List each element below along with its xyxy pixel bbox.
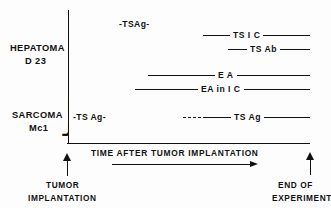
brace-glyph: } (57, 10, 69, 98)
callout-implantation-line2: IMPLANTATION (28, 194, 97, 202)
bar-label-ts-ag: TS Ag (231, 113, 264, 122)
bar-label-ea-in-ic: EA in I C (198, 85, 244, 94)
callout-end-line2: EXPERIMENT (272, 194, 331, 202)
arrow-up-icon (63, 153, 71, 161)
x-axis-line (67, 143, 310, 144)
callout-implantation-line1: TUMOR (46, 181, 79, 189)
bar-label-ea: E A (215, 71, 237, 80)
bar-dashed-segment-ts-ag (183, 117, 206, 118)
x-axis-arrow-shaft (112, 164, 252, 165)
group-label-sarcoma-line2: Mc1 (29, 124, 48, 133)
group-label-hepatoma-line2: D 23 (25, 57, 46, 66)
bar-label-ts-ab: TS Ab (247, 45, 280, 54)
brace-hepatoma-icon: } (57, 10, 69, 100)
x-axis-caption: TIME AFTER TUMOR IMPLANTATION (91, 149, 259, 157)
annotation-hepatoma-tsag: -TSAg- (119, 20, 150, 29)
arrow-up-icon (306, 152, 314, 160)
group-label-hepatoma-line1: HEPATOMA (10, 44, 65, 53)
callout-implantation-shaft (67, 160, 68, 176)
arrow-right-icon (250, 161, 258, 167)
annotation-sarcoma-tsag: -TS Ag- (73, 113, 106, 122)
group-label-sarcoma-line1: SARCOMA (12, 111, 63, 120)
callout-end-line1: END OF (278, 181, 313, 189)
timeline-figure: } } HEPATOMA D 23 SARCOMA Mc1 -TSAg- -TS… (0, 0, 331, 208)
bar-label-ts-ic: TS I C (230, 31, 263, 40)
callout-end-shaft (310, 159, 311, 175)
